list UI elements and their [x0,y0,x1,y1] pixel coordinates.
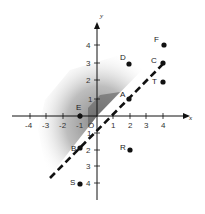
point-label-B: B [71,144,76,153]
y-axis-arrow-icon [94,22,100,29]
point-T [160,79,165,84]
x-axis-label: x [188,114,193,122]
x-tick-label: -1 [76,121,84,130]
point-E [77,113,82,118]
point-label-R: R [120,143,126,152]
y-tick-label: 1 [88,95,93,104]
point-label-A: A [120,90,126,99]
point-label-D: D [120,53,126,62]
x-tick-label: 4 [161,121,166,130]
y-tick-label: 4 [86,179,91,188]
point-A [126,96,131,101]
y-tick-label: 3 [86,59,91,68]
x-tick-label: 1 [111,121,116,130]
coordinate-plane: -4 -3 -2 -1 1 2 3 4 O 4 3 2 1 1 2 3 4 x … [0,0,205,214]
y-tick-label: 4 [86,41,91,50]
point-S [77,181,82,186]
y-tick-label: 2 [86,76,91,85]
y-axis-label: y [99,12,104,20]
x-tick-label: -2 [59,121,67,130]
point-label-T: T [152,77,157,86]
point-C [160,60,165,65]
x-tick-label: -3 [42,121,50,130]
point-label-E: E [76,103,81,112]
point-B [77,145,82,150]
point-F [161,42,166,47]
y-tick-label: 2 [86,146,91,155]
x-tick-label: 2 [128,121,133,130]
point-R [127,147,132,152]
x-tick-label: 3 [144,121,149,130]
y-tick-label: 3 [86,162,91,171]
point-label-F: F [154,35,159,44]
point-label-S: S [70,178,75,187]
point-D [126,61,131,66]
point-label-C: C [151,56,157,65]
x-tick-label: -4 [25,121,33,130]
